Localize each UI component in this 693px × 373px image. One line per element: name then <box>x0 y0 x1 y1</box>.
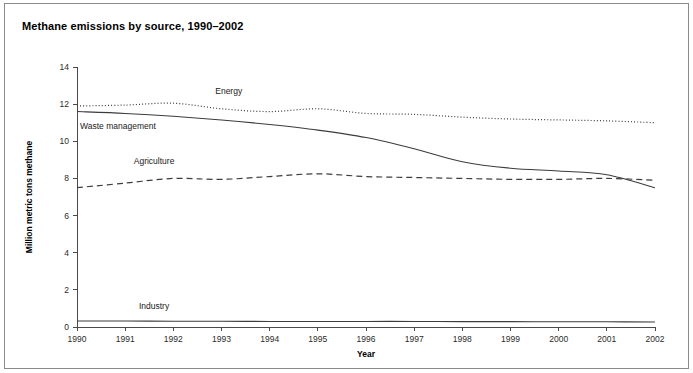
series-line-industry <box>77 321 655 322</box>
series-line-energy <box>77 103 655 123</box>
y-tick-label: 2 <box>64 285 69 295</box>
y-axis-title: Million metric tons methane <box>24 141 34 254</box>
x-tick-label: 2002 <box>646 334 665 344</box>
y-tick-label: 10 <box>60 136 70 146</box>
x-tick-label: 1990 <box>68 334 87 344</box>
x-tick-label: 1992 <box>164 334 183 344</box>
series-line-waste-management <box>77 112 655 188</box>
y-tick-label: 0 <box>64 322 69 332</box>
y-tick-label: 8 <box>64 173 69 183</box>
x-tick-label: 2000 <box>549 334 568 344</box>
line-chart-plot: 0246810121419901991199219931994199519961… <box>0 0 693 373</box>
series-label-agriculture: Agriculture <box>134 156 175 166</box>
x-tick-label: 1997 <box>405 334 424 344</box>
y-tick-label: 14 <box>60 62 70 72</box>
x-tick-label: 1995 <box>308 334 327 344</box>
series-line-agriculture <box>77 174 655 188</box>
chart-figure: Methane emissions by source, 1990–2002 0… <box>0 0 693 373</box>
x-tick-label: 1996 <box>357 334 376 344</box>
y-tick-label: 4 <box>64 248 69 258</box>
x-tick-label: 1991 <box>116 334 135 344</box>
x-axis-title: Year <box>357 349 376 359</box>
x-tick-label: 1993 <box>212 334 231 344</box>
series-label-industry: Industry <box>139 301 170 311</box>
x-tick-label: 1994 <box>260 334 279 344</box>
y-tick-label: 6 <box>64 211 69 221</box>
y-tick-label: 12 <box>60 99 70 109</box>
series-label-energy: Energy <box>215 86 243 96</box>
x-tick-label: 2001 <box>597 334 616 344</box>
x-tick-label: 1999 <box>501 334 520 344</box>
x-tick-label: 1998 <box>453 334 472 344</box>
series-label-waste-management: Waste management <box>80 121 156 131</box>
